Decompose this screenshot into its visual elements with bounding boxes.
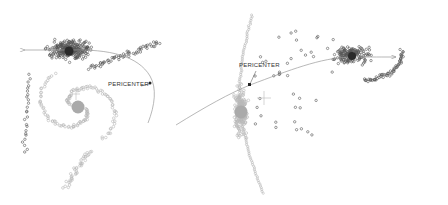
left-host-galaxy-particles <box>39 72 118 189</box>
left-host-core <box>72 101 85 114</box>
right-orbit-path <box>176 57 396 125</box>
right-companion-galaxy-particles <box>254 30 404 136</box>
galaxy-interaction-diagram: PERICENTER PERICENTER <box>0 0 448 205</box>
right-pericenter-marker <box>248 83 251 86</box>
right-pericenter-label: PERICENTER <box>239 62 280 68</box>
diagram-canvas <box>0 0 448 205</box>
right-host-galaxy-particles <box>233 14 265 194</box>
left-companion-core <box>65 47 74 56</box>
left-panel <box>21 38 161 189</box>
right-panel <box>176 14 404 194</box>
left-pericenter-label: PERICENTER <box>108 81 149 87</box>
right-host-core <box>235 106 248 119</box>
right-companion-core <box>348 52 356 60</box>
